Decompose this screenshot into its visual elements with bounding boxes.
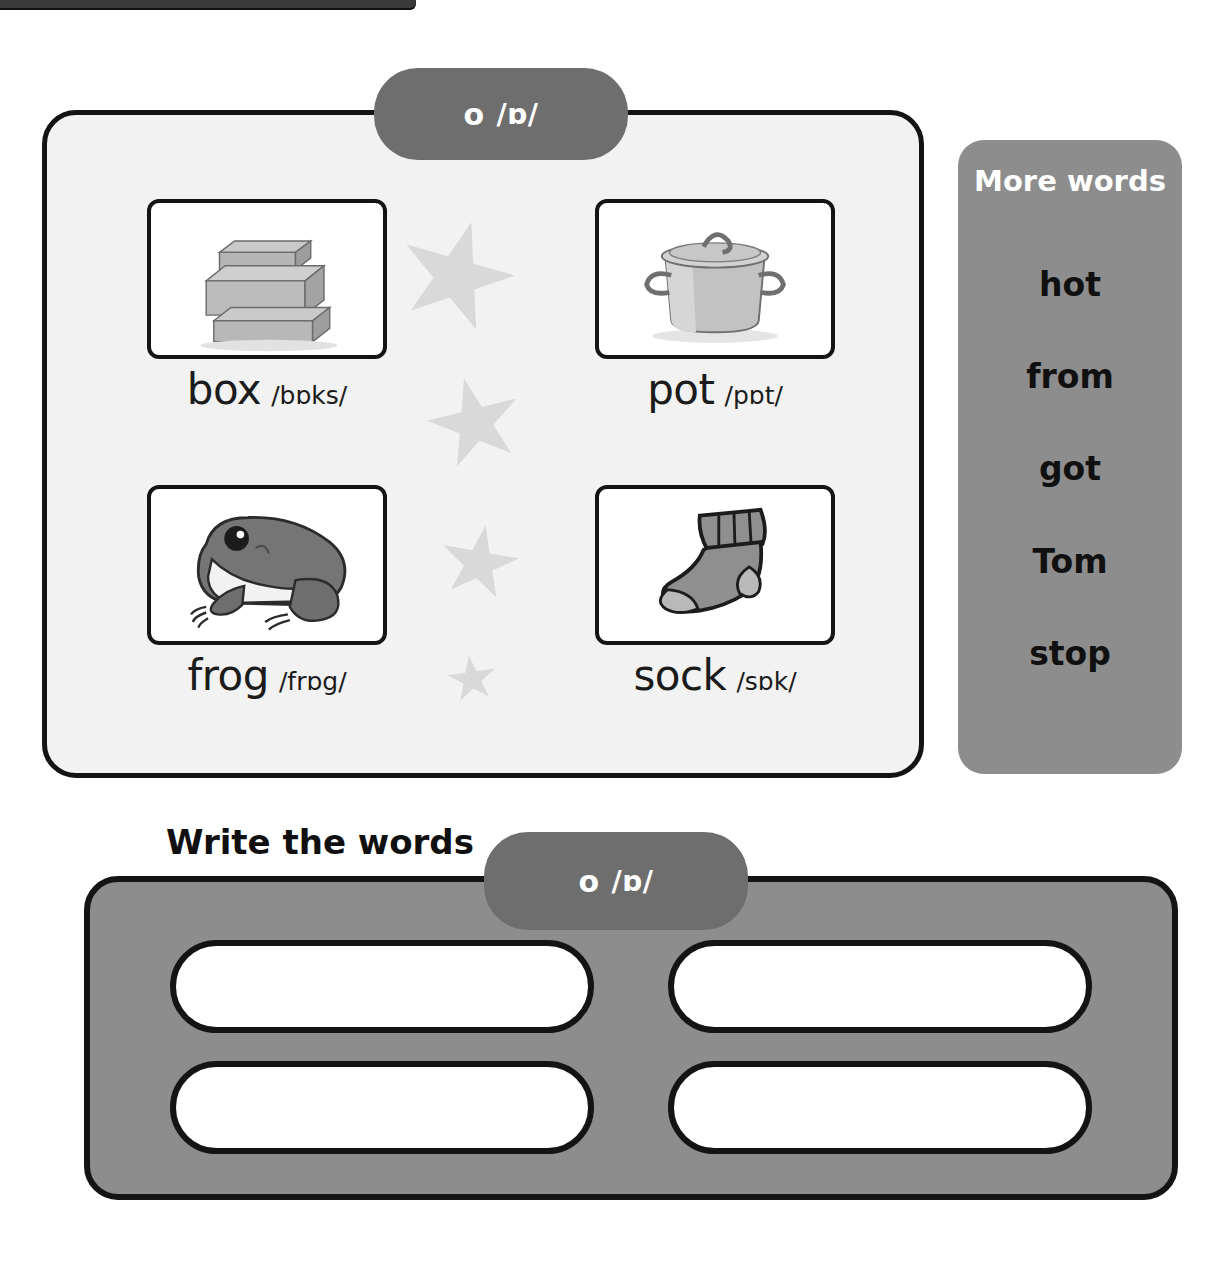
picture-card-label: box /bɒks/ <box>147 365 387 414</box>
more-word-item: Tom <box>1032 542 1107 581</box>
sock-image <box>599 489 831 641</box>
picture-frame <box>147 485 387 645</box>
card-word: sock <box>633 651 726 700</box>
top-edge-bar <box>0 0 416 8</box>
card-ipa: /sɒk/ <box>736 667 796 696</box>
picture-frame <box>147 199 387 359</box>
more-words-panel: More words hot from got Tom stop <box>958 140 1182 774</box>
picture-card-label: pot /pɒt/ <box>595 365 835 414</box>
sound-tag-letter: o <box>463 97 484 132</box>
answer-box[interactable] <box>170 940 594 1033</box>
pot-image <box>599 203 831 355</box>
card-word: pot <box>647 365 714 414</box>
more-word-item: from <box>1026 357 1114 396</box>
sound-tag-top: o /ɒ/ <box>374 68 628 160</box>
more-words-title: More words <box>974 164 1166 198</box>
sound-tag-ipa: /ɒ/ <box>612 865 654 898</box>
picture-card-frog[interactable]: frog /frɒg/ <box>147 485 387 700</box>
picture-frame <box>595 485 835 645</box>
sound-tag-letter: o <box>578 864 599 899</box>
sound-tag-write-section: o /ɒ/ <box>484 832 748 930</box>
answer-box[interactable] <box>668 1061 1092 1154</box>
more-word-item: stop <box>1029 634 1111 673</box>
more-words-list: hot from got Tom stop <box>958 212 1182 774</box>
picture-card-label: frog /frɒg/ <box>147 651 387 700</box>
card-ipa: /pɒt/ <box>724 381 782 410</box>
picture-panel: box /bɒks/ pot /pɒt/ <box>42 110 924 778</box>
card-word: frog <box>187 651 269 700</box>
sound-tag-ipa: /ɒ/ <box>497 98 539 131</box>
picture-card-sock[interactable]: sock /sɒk/ <box>595 485 835 700</box>
boxes-image <box>151 203 383 355</box>
more-word-item: got <box>1039 449 1101 488</box>
card-ipa: /frɒg/ <box>279 667 347 696</box>
card-word: box <box>187 365 261 414</box>
frog-image <box>151 489 383 641</box>
answer-box[interactable] <box>668 940 1092 1033</box>
picture-frame <box>595 199 835 359</box>
picture-card-pot[interactable]: pot /pɒt/ <box>595 199 835 414</box>
picture-card-grid: box /bɒks/ pot /pɒt/ <box>47 115 919 773</box>
card-ipa: /bɒks/ <box>271 381 347 410</box>
write-the-words-heading: Write the words <box>166 822 474 862</box>
picture-card-label: sock /sɒk/ <box>595 651 835 700</box>
picture-card-box[interactable]: box /bɒks/ <box>147 199 387 414</box>
answer-box[interactable] <box>170 1061 594 1154</box>
more-word-item: hot <box>1039 265 1101 304</box>
